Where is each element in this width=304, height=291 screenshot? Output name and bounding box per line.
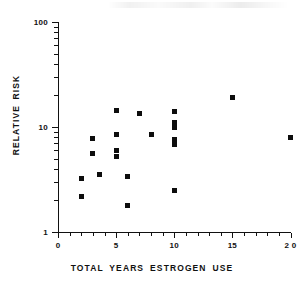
data-point-marker xyxy=(230,95,235,100)
data-point-marker xyxy=(114,148,119,153)
data-point-marker xyxy=(114,108,119,113)
data-point-marker xyxy=(97,172,102,177)
data-point-marker xyxy=(125,203,130,208)
data-point-marker xyxy=(137,111,142,116)
data-point-marker xyxy=(172,142,177,147)
data-point-marker xyxy=(114,154,119,159)
data-point-marker xyxy=(90,151,95,156)
data-point-marker xyxy=(125,174,130,179)
data-point-marker xyxy=(79,194,84,199)
plot-area xyxy=(0,0,304,291)
x-axis-title: TOTAL YEARS ESTROGEN USE xyxy=(0,263,304,273)
data-point-marker xyxy=(90,136,95,141)
data-point-marker xyxy=(172,109,177,114)
scatter-chart-figure: 110100 0510152 0 RELATIVE RISK TOTAL YEA… xyxy=(0,0,304,291)
data-point-marker xyxy=(114,132,119,137)
data-point-marker xyxy=(79,176,84,181)
data-point-marker xyxy=(149,132,154,137)
data-point-marker xyxy=(172,125,177,130)
data-point-marker xyxy=(288,135,293,140)
data-point-marker xyxy=(172,188,177,193)
y-axis-title: RELATIVE RISK xyxy=(11,55,21,175)
